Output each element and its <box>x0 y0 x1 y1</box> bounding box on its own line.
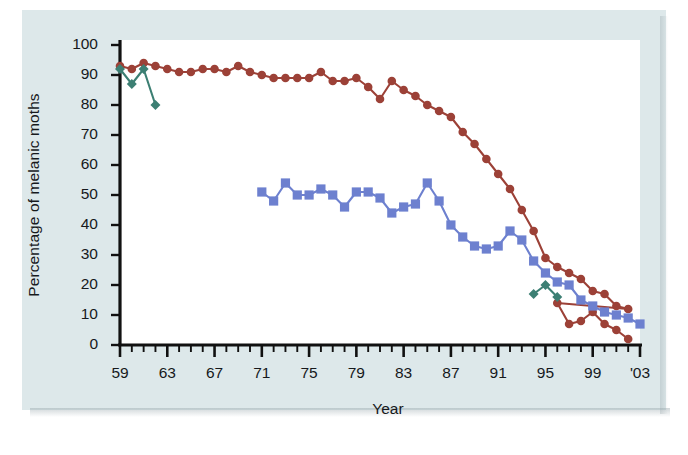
red-series-point <box>128 65 137 74</box>
figure-container: 0102030405060708090100596367717579838791… <box>0 0 688 455</box>
blue-series-point <box>600 307 609 316</box>
blue-series-point <box>293 190 302 199</box>
red-series-point <box>210 65 219 74</box>
red-series-point <box>624 305 633 314</box>
red-series-point <box>624 335 633 344</box>
red-series-point <box>340 77 349 86</box>
red-series-point <box>293 74 302 83</box>
line-chart <box>0 0 688 455</box>
red-series-point <box>305 74 314 83</box>
blue-series-point <box>399 202 408 211</box>
red-series-point <box>269 74 278 83</box>
blue-series-point <box>446 220 455 229</box>
blue-series-point <box>494 241 503 250</box>
red-series-point <box>163 65 172 74</box>
red-series-point <box>281 74 290 83</box>
red-series-point <box>376 95 385 104</box>
blue-series-point <box>269 196 278 205</box>
y-tick-label: 10 <box>56 305 98 323</box>
red-series-point <box>565 320 574 329</box>
blue-series-point <box>304 190 313 199</box>
blue-series-point <box>434 196 443 205</box>
red-series-point <box>612 302 621 311</box>
x-tick-label: 63 <box>144 364 190 382</box>
x-axis-label: Year <box>118 400 658 418</box>
blue-series-point <box>458 232 467 241</box>
red-series-point <box>198 65 207 74</box>
red-series-point <box>494 170 503 179</box>
plot-area <box>120 40 640 345</box>
x-tick-label: 71 <box>239 364 285 382</box>
blue-series-point <box>505 226 514 235</box>
y-tick-label: 40 <box>56 215 98 233</box>
blue-series-point <box>624 313 633 322</box>
x-tick-label: 87 <box>428 364 474 382</box>
x-tick-label: 67 <box>192 364 238 382</box>
red-series-point <box>518 206 527 215</box>
red-series-point <box>506 185 515 194</box>
y-tick-label: 90 <box>56 65 98 83</box>
x-tick-label: 75 <box>286 364 332 382</box>
red-series-point <box>435 107 444 116</box>
blue-series-point <box>612 310 621 319</box>
red-series-point <box>399 86 408 95</box>
x-tick-label: 91 <box>475 364 521 382</box>
blue-series-point <box>470 241 479 250</box>
x-tick-label: 59 <box>97 364 143 382</box>
red-series-point <box>541 254 550 263</box>
red-series-point <box>470 140 479 149</box>
y-tick-label: 50 <box>56 185 98 203</box>
x-tick-label: 83 <box>381 364 427 382</box>
blue-series-point <box>553 277 562 286</box>
red-series-point <box>234 62 243 71</box>
blue-series-point <box>375 193 384 202</box>
red-series-point <box>258 71 267 80</box>
blue-series-point <box>257 187 266 196</box>
blue-series-point <box>588 301 597 310</box>
red-series-point <box>600 320 609 329</box>
red-series-point <box>577 275 586 284</box>
red-series-point <box>447 113 456 122</box>
red-series-point <box>151 62 160 71</box>
blue-series-point <box>387 208 396 217</box>
blue-series-point <box>328 190 337 199</box>
red-series-point <box>317 68 326 77</box>
red-series-point <box>458 128 467 137</box>
red-series-point <box>423 101 432 110</box>
blue-series-point <box>340 202 349 211</box>
red-series-point <box>612 326 621 335</box>
blue-series-point <box>423 178 432 187</box>
blue-series-point <box>517 235 526 244</box>
red-series-point <box>411 92 420 101</box>
y-tick-label: 20 <box>56 275 98 293</box>
blue-series-point <box>352 187 361 196</box>
red-series-point <box>328 77 337 86</box>
blue-series-point <box>316 184 325 193</box>
y-tick-label: 70 <box>56 125 98 143</box>
x-tick-label: 95 <box>522 364 568 382</box>
red-series-point <box>187 68 196 77</box>
blue-series-point <box>541 268 550 277</box>
red-series-point <box>222 68 231 77</box>
blue-series-point <box>576 295 585 304</box>
red-series-point <box>529 227 538 236</box>
x-tick-label: 99 <box>570 364 616 382</box>
y-tick-label: 80 <box>56 95 98 113</box>
y-axis-label: Percentage of melanic moths <box>25 65 43 325</box>
blue-series-point <box>411 199 420 208</box>
blue-series-point <box>364 187 373 196</box>
y-tick-label: 30 <box>56 245 98 263</box>
red-series-point <box>352 74 361 83</box>
x-tick-label: 79 <box>333 364 379 382</box>
red-series-point <box>246 68 255 77</box>
red-series-point <box>565 269 574 278</box>
y-tick-label: 100 <box>56 35 98 53</box>
x-tick-label: '03 <box>617 364 663 382</box>
blue-series-point <box>482 244 491 253</box>
blue-series-point <box>529 256 538 265</box>
red-series-point <box>482 155 491 164</box>
red-series-point <box>388 77 397 86</box>
blue-series-point <box>564 280 573 289</box>
red-series-point <box>553 263 562 272</box>
red-series-point <box>364 83 373 92</box>
